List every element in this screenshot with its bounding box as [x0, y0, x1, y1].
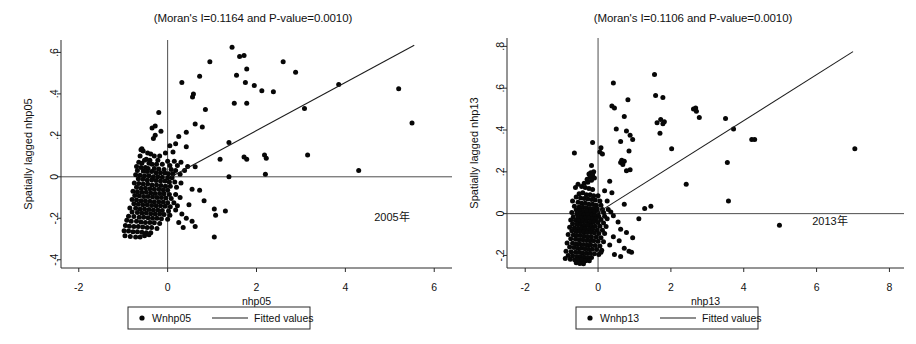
panel-2005: (Moran's I=0.1164 and P-value=0.0010) -.…	[0, 0, 458, 344]
scatter-point	[131, 201, 136, 206]
scatter-point	[150, 126, 155, 131]
panel-2013: (Moran's I=0.1106 and P-value=0.0010) -.…	[458, 0, 916, 344]
scatter-point	[124, 218, 129, 223]
scatter-point	[612, 252, 617, 257]
scatter-point	[596, 193, 601, 198]
scatter-point	[605, 216, 610, 221]
scatter-point	[618, 227, 623, 232]
scatter-point	[852, 146, 857, 151]
scatter-point	[684, 182, 689, 187]
x-tick-label: 4	[741, 281, 747, 293]
scatter-points	[563, 72, 858, 266]
scatter-point	[134, 164, 139, 169]
x-axis-ticks: -202468	[521, 268, 893, 293]
y-axis-ticks: -.20.2.4.6.8	[494, 42, 507, 262]
scatter-point	[134, 185, 139, 190]
scatter-point	[197, 74, 202, 79]
scatter-point	[597, 199, 602, 204]
scatter-point	[200, 125, 205, 130]
scatter-point	[234, 73, 239, 78]
scatter-point	[660, 121, 665, 126]
scatter-point	[630, 137, 635, 142]
scatter-point	[150, 216, 155, 221]
y-tick-label: -.2	[494, 249, 506, 261]
scatter-point	[614, 126, 619, 131]
x-axis-ticks: -20246	[74, 268, 437, 293]
scatter-point	[263, 172, 268, 177]
scatter-point	[566, 232, 571, 237]
scatter-point	[697, 115, 702, 120]
scatter-point	[669, 146, 674, 151]
scatter-point	[223, 209, 228, 214]
scatter-point	[154, 178, 159, 183]
scatter-point	[660, 95, 665, 100]
scatter-point	[170, 149, 175, 154]
scatter-point	[624, 129, 629, 134]
scatter-point	[186, 202, 191, 207]
scatter-point	[625, 97, 630, 102]
x-tick-label: 6	[431, 281, 437, 293]
scatter-point	[237, 54, 242, 59]
scatter-point	[128, 234, 133, 239]
scatter-point	[197, 188, 202, 193]
scatter-point	[152, 220, 157, 225]
scatter-point	[600, 152, 605, 157]
scatter-point	[176, 220, 181, 225]
scatter-point	[607, 179, 612, 184]
scatter-point	[147, 186, 152, 191]
scatter-point	[149, 225, 154, 230]
scatter-point	[173, 207, 178, 212]
scatter-point	[213, 213, 218, 218]
y-tick-label: .6	[494, 84, 506, 93]
scatter-point	[618, 254, 623, 259]
scatter-point	[629, 250, 634, 255]
scatter-point	[157, 221, 162, 226]
scatter-point	[165, 217, 170, 222]
scatter-point	[136, 176, 141, 181]
scatter-point	[130, 229, 135, 234]
scatter-point	[203, 107, 208, 112]
scatter-point	[149, 169, 154, 174]
scatter-point	[726, 199, 731, 204]
scatter-point	[162, 212, 167, 217]
scatter-point	[281, 59, 286, 64]
scatter-point	[184, 144, 189, 149]
scatter-point	[620, 162, 625, 167]
scatter-point	[612, 106, 617, 111]
scatter-point	[152, 187, 157, 192]
y-tick-label: .8	[494, 42, 506, 51]
scatter-point	[146, 215, 151, 220]
scatter-point	[618, 139, 623, 144]
scatter-point	[723, 116, 728, 121]
scatter-point	[252, 83, 257, 88]
scatter-point	[173, 141, 178, 146]
y-axis-title: Spatially lagged nhp05	[22, 98, 34, 209]
scatter-point	[589, 163, 594, 168]
scatter-point	[627, 148, 632, 153]
x-tick-label: -2	[74, 281, 83, 293]
x-tick-label: 8	[887, 281, 893, 293]
scatter-point	[596, 239, 601, 244]
scatter-point	[624, 230, 629, 235]
scatter-point	[565, 240, 570, 245]
moran-scatterplot-figure: (Moran's I=0.1164 and P-value=0.0010) -.…	[0, 0, 916, 344]
scatter-point	[226, 174, 231, 179]
scatter-point	[175, 163, 180, 168]
scatter-point	[259, 88, 264, 93]
scatter-point	[152, 154, 157, 159]
y-tick-label: .4	[48, 89, 60, 98]
scatter-point	[166, 171, 171, 176]
scatter-point	[648, 204, 653, 209]
scatter-point	[193, 224, 198, 229]
scatter-point	[212, 234, 217, 239]
scatter-point	[149, 177, 154, 182]
scatter-point	[145, 202, 150, 207]
scatter-point	[305, 153, 310, 158]
scatter-point	[593, 198, 598, 203]
legend-marker-points	[139, 315, 144, 320]
legend-label-points: Wnhp05	[152, 312, 191, 324]
scatter-point	[356, 168, 361, 173]
scatter-point	[154, 226, 159, 231]
fitted-line	[171, 45, 414, 177]
scatter-point	[163, 195, 168, 200]
